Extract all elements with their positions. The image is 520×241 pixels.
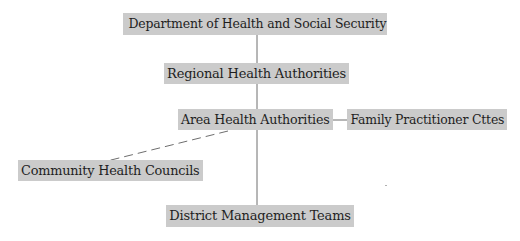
node-fpc-label: Family Practitioner Cttes <box>350 109 504 130</box>
node-aha-label: Area Health Authorities <box>181 109 330 130</box>
scan-artifact-dot <box>385 185 387 186</box>
org-chart-diagram: Department of Health and Social Security… <box>0 0 520 241</box>
node-dhss-label: Department of Health and Social Security <box>128 13 386 35</box>
node-area-health-authorities: Area Health Authorities <box>178 109 333 130</box>
node-dhss: Department of Health and Social Security <box>123 13 387 35</box>
node-district-management-teams: District Management Teams <box>166 205 354 227</box>
node-dmt-label: District Management Teams <box>169 205 351 227</box>
edge-aha-chc-dashed <box>107 131 228 161</box>
node-rha-label: Regional Health Authorities <box>167 63 346 84</box>
node-family-practitioner-cttes: Family Practitioner Cttes <box>347 109 507 130</box>
node-community-health-councils: Community Health Councils <box>18 160 203 181</box>
node-chc-label: Community Health Councils <box>21 160 200 181</box>
node-regional-health-authorities: Regional Health Authorities <box>164 63 349 84</box>
